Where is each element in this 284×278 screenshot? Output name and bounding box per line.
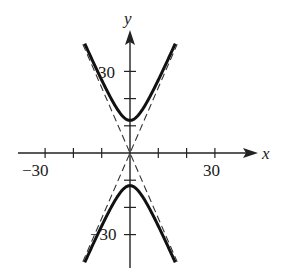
x-tick-label-30: 30 (203, 161, 220, 180)
y-tick-label-30: 30 (98, 63, 115, 82)
x-tick-label-neg30: −30 (22, 161, 49, 180)
y-tick-label-neg30: −30 (90, 225, 117, 244)
axes (18, 30, 258, 268)
hyperbola-chart: x y −30 30 30 −30 (0, 0, 284, 278)
x-axis-label: x (261, 144, 270, 163)
y-axis-label: y (122, 9, 132, 28)
